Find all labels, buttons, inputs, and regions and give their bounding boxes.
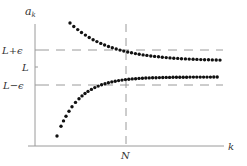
- sequence-point: [172, 57, 175, 60]
- sequence-point: [199, 58, 202, 61]
- sequence-point: [67, 110, 70, 113]
- sequence-point: [103, 82, 106, 85]
- sequence-point: [153, 55, 156, 58]
- sequence-point: [83, 92, 86, 95]
- sequence-point: [176, 57, 179, 60]
- sequence-point: [175, 76, 178, 79]
- sequence-point: [165, 56, 168, 59]
- sequence-point: [111, 46, 114, 49]
- sequence-point: [107, 45, 110, 48]
- sequence-point: [165, 76, 168, 79]
- x-axis-label: k: [228, 141, 234, 152]
- sequence-point: [134, 77, 137, 80]
- convergence-diagram: ak L+ϵ L L−ϵ N k: [0, 0, 247, 166]
- sequence-point: [95, 40, 98, 43]
- sequence-point: [188, 57, 191, 60]
- sequence-point: [97, 84, 100, 87]
- sequence-point: [141, 53, 144, 56]
- sequence-point: [76, 28, 79, 31]
- upper-sequence-dots: [68, 21, 221, 62]
- sequence-point: [203, 58, 206, 61]
- sequence-point: [202, 75, 205, 78]
- sequence-point: [68, 21, 71, 24]
- sequence-point: [212, 75, 215, 78]
- sequence-point: [161, 56, 164, 59]
- sequence-point: [151, 76, 154, 79]
- sequence-point: [103, 43, 106, 46]
- sequence-point: [88, 36, 91, 39]
- sequence-point: [126, 50, 129, 53]
- sequence-point: [148, 76, 151, 79]
- limit-label: L: [21, 62, 29, 73]
- sequence-point: [182, 76, 185, 79]
- sequence-point: [138, 53, 141, 56]
- sequence-point: [131, 77, 134, 80]
- sequence-point: [107, 81, 110, 84]
- sequence-point: [127, 78, 130, 81]
- sequence-point: [195, 75, 198, 78]
- sequence-point: [211, 58, 214, 61]
- sequence-point: [154, 76, 157, 79]
- sequence-point: [72, 25, 75, 28]
- sequence-point: [80, 31, 83, 34]
- sequence-point: [117, 79, 120, 82]
- sequence-point: [130, 51, 133, 54]
- sequence-point: [157, 55, 160, 58]
- sequence-point: [100, 83, 103, 86]
- sequence-point: [90, 88, 93, 91]
- sequence-point: [137, 77, 140, 80]
- lower-band-label: L−ϵ: [2, 80, 24, 91]
- sequence-point: [144, 76, 147, 79]
- sequence-point: [168, 56, 171, 59]
- sequence-point: [110, 80, 113, 83]
- sequence-point: [120, 78, 123, 81]
- sequence-point: [84, 33, 87, 36]
- sequence-point: [55, 134, 58, 137]
- sequence-point: [99, 42, 102, 45]
- y-axis-label: ak: [25, 5, 36, 19]
- sequence-point: [64, 115, 67, 118]
- sequence-point: [124, 78, 127, 81]
- sequence-point: [178, 76, 181, 79]
- sequence-point: [195, 58, 198, 61]
- sequence-point: [91, 38, 94, 41]
- sequence-point: [115, 47, 118, 50]
- sequence-point: [188, 75, 191, 78]
- sequence-point: [158, 76, 161, 79]
- sequence-point: [168, 76, 171, 79]
- sequence-point: [180, 57, 183, 60]
- upper-band-label: L+ϵ: [1, 45, 23, 56]
- sequence-point: [74, 101, 77, 104]
- sequence-point: [199, 75, 202, 78]
- sequence-point: [122, 49, 125, 52]
- n-marker-label: N: [120, 150, 131, 161]
- sequence-point: [192, 75, 195, 78]
- sequence-point: [149, 54, 152, 57]
- sequence-point: [70, 105, 73, 108]
- sequence-point: [215, 58, 218, 61]
- sequence-point: [114, 80, 117, 83]
- sequence-point: [207, 58, 210, 61]
- sequence-point: [80, 94, 83, 97]
- sequence-point: [216, 75, 219, 78]
- sequence-point: [209, 75, 212, 78]
- sequence-point: [141, 77, 144, 80]
- sequence-point: [93, 86, 96, 89]
- sequence-point: [205, 75, 208, 78]
- sequence-point: [118, 48, 121, 51]
- sequence-point: [77, 97, 80, 100]
- sequence-point: [218, 58, 221, 61]
- sequence-point: [62, 119, 65, 122]
- sequence-point: [86, 90, 89, 93]
- sequence-point: [134, 52, 137, 55]
- sequence-point: [185, 76, 188, 79]
- sequence-point: [184, 57, 187, 60]
- sequence-point: [161, 76, 164, 79]
- sequence-point: [145, 54, 148, 57]
- sequence-point: [191, 58, 194, 61]
- sequence-point: [59, 125, 62, 128]
- sequence-point: [171, 76, 174, 79]
